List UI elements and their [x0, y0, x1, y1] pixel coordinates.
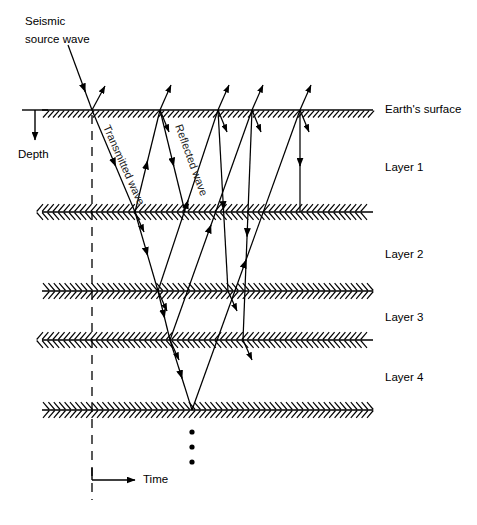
- transmitted-wave-label: Transmitted wave: [101, 123, 147, 207]
- downleg-from-bounce1-direction-arrow: [172, 160, 173, 166]
- upleg-layer3-to-surface-direction-arrow: [209, 225, 211, 231]
- source-wave-label-line2: source wave: [25, 33, 90, 45]
- seismic-diagram: Seismic source wave Earth's surface Laye…: [0, 0, 477, 525]
- source-point-upgoing-stub: [92, 86, 105, 110]
- upleg-layer1-to-surface-direction-arrow: [146, 161, 147, 167]
- time-axis-label: Time: [143, 473, 168, 485]
- ellipsis-dot-1: [189, 429, 194, 434]
- surface-bounce-1-upgoing-arrow: [160, 85, 171, 110]
- downleg-from-bounce3: [243, 110, 252, 340]
- source-wave-label-line1: Seismic: [25, 15, 66, 27]
- transmitted-ray-seg2-direction-arrow: [146, 250, 148, 256]
- surface-bounce-2-upgoing-arrow: [218, 85, 229, 110]
- surface-bounce-4-downgoing-arrow: [300, 110, 309, 132]
- layer-4-label: Layer 4: [385, 371, 424, 383]
- ellipsis-dot-2: [189, 444, 194, 449]
- earth-surface-label: Earth's surface: [385, 103, 461, 115]
- surface-bounce-4-upgoing-arrow: [300, 85, 311, 110]
- layer-2-label: Layer 2: [385, 248, 423, 260]
- depth-axis-label: Depth: [18, 148, 49, 160]
- transmitted-ray-seg3-direction-arrow: [163, 312, 164, 318]
- seismic-ray-path-figure: Seismic source wave Earth's surface Laye…: [0, 0, 477, 525]
- layer-1-label: Layer 1: [385, 161, 423, 173]
- ellipsis-dot-3: [189, 459, 194, 464]
- axis-indicators: [22, 110, 135, 500]
- incident-source-ray: [68, 45, 92, 110]
- boundary-layer3-base: [37, 332, 373, 348]
- reflector-transmitted-stub-5: [243, 340, 252, 360]
- transmitted-ray-seg4-direction-arrow: [180, 373, 182, 379]
- boundary-layer1-base: [37, 204, 373, 220]
- ray-paths: [68, 45, 311, 410]
- transmitted-ray-seg1-direction-arrow: [113, 161, 115, 167]
- incident-source-ray-direction-arrow: [83, 86, 85, 92]
- vertical-ellipsis: [189, 429, 194, 464]
- surface-bounce-3-upgoing-arrow: [252, 85, 263, 110]
- layer-3-label: Layer 3: [385, 311, 423, 323]
